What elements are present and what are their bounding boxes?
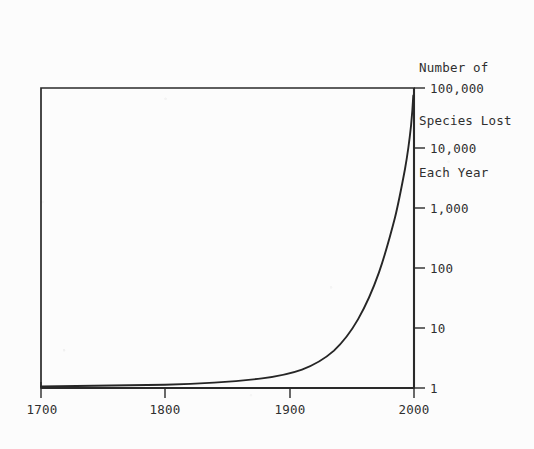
extinction-rate-curve — [41, 96, 413, 387]
y-tick-label-100000: 100,000 — [430, 82, 484, 95]
plot-frame — [41, 88, 414, 388]
x-tick-label-2000: 2000 — [378, 403, 450, 416]
x-tick-label-1700: 1700 — [6, 403, 78, 416]
y-tick-label-1: 1 — [430, 382, 438, 395]
plot-area — [0, 0, 534, 449]
x-tick-marks — [41, 382, 414, 398]
y-tick-label-10000: 10,000 — [430, 142, 476, 155]
chart-page: Number of Species Lost Each Year — [0, 0, 534, 449]
y-tick-label-100: 100 — [430, 262, 453, 275]
y-tick-label-10: 10 — [430, 322, 445, 335]
y-tick-label-1000: 1,000 — [430, 202, 469, 215]
x-tick-label-1800: 1800 — [129, 403, 201, 416]
x-tick-label-1900: 1900 — [254, 403, 326, 416]
